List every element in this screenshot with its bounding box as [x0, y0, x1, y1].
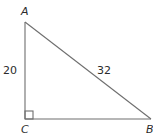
side-label-ab: 32 — [97, 64, 111, 77]
vertex-label-b: B — [146, 123, 153, 135]
side-ab-hypotenuse — [25, 22, 151, 119]
side-label-ac: 20 — [3, 64, 17, 77]
right-angle-marker — [25, 111, 33, 119]
triangle-diagram: A C B 20 32 — [0, 0, 153, 135]
vertex-label-c: C — [21, 123, 29, 135]
vertex-label-a: A — [20, 5, 29, 18]
